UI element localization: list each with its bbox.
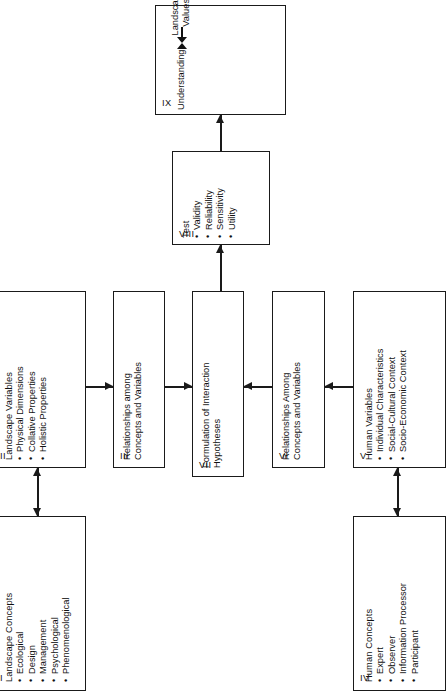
node-vii-content: Formulation of Interaction Hypotheses bbox=[201, 363, 224, 468]
node-iii-numeral: III bbox=[120, 451, 129, 461]
list-item: Reliability bbox=[204, 188, 215, 238]
connector-i-to-ii bbox=[32, 468, 44, 516]
arrowhead-right-icon bbox=[184, 382, 192, 390]
node-vi-numeral: VI bbox=[279, 451, 289, 461]
node-vi: Relationships Among Concepts and Variabl… bbox=[272, 291, 325, 468]
node-i-title: Landscape Concepts bbox=[4, 593, 15, 682]
node-iii-line1: Relationships among bbox=[122, 362, 133, 460]
arrowhead-up-icon bbox=[216, 245, 224, 253]
list-item: Psychological bbox=[50, 593, 61, 682]
node-iii-line2: Concepts and Variables bbox=[133, 362, 144, 460]
node-v-content: Human Variables Individual Characteristi… bbox=[364, 349, 410, 460]
node-ii-bullets: Physical Dimensions Collative Properties… bbox=[15, 366, 49, 460]
node-i-numeral: I bbox=[0, 673, 3, 683]
node-iii: Relationships among Concepts and Variabl… bbox=[113, 291, 165, 468]
arrowhead-left-icon bbox=[244, 382, 252, 390]
list-item: Information Processor bbox=[398, 583, 409, 682]
node-v-numeral: V bbox=[360, 451, 367, 461]
connector-ii-to-iii bbox=[86, 381, 113, 393]
node-viii-numeral: VIII bbox=[179, 229, 195, 239]
list-item: Sensitivity bbox=[215, 188, 226, 238]
node-i-bullets: Ecological Design Management Psychologic… bbox=[15, 593, 72, 682]
list-item: Observer bbox=[387, 583, 398, 682]
node-iv: Human Concepts Expert Observer Informati… bbox=[353, 516, 446, 691]
list-item: Social-Cultural Context bbox=[387, 349, 398, 460]
connector-vi-to-vii bbox=[244, 381, 272, 393]
arrowhead-left-icon bbox=[325, 382, 333, 390]
node-ii-title: Landscape Variables bbox=[4, 366, 15, 460]
node-vi-content: Relationships Among Concepts and Variabl… bbox=[281, 362, 304, 460]
node-ix-numeral: IX bbox=[162, 98, 172, 108]
node-ix: Understanding Landscape Values Applicati… bbox=[155, 5, 286, 115]
node-ix-content: Understanding Landscape Values Applicati… bbox=[170, 10, 193, 110]
list-item: Participant bbox=[410, 583, 421, 682]
arrowhead-up-icon bbox=[393, 468, 401, 476]
node-ix-understanding-label: Understanding bbox=[176, 50, 187, 110]
list-item: Ecological bbox=[15, 593, 26, 682]
node-vii-line2: Hypotheses bbox=[212, 363, 223, 468]
list-item: Individual Characteristics bbox=[375, 349, 386, 460]
list-item: Socio-Economic Context bbox=[398, 349, 409, 460]
node-v-title: Human Variables bbox=[364, 349, 375, 460]
node-v: Human Variables Individual Characteristi… bbox=[353, 291, 446, 468]
node-iii-content: Relationships among Concepts and Variabl… bbox=[122, 362, 145, 460]
arrowhead-right-icon bbox=[105, 382, 113, 390]
node-ii-numeral: II bbox=[0, 451, 6, 461]
node-viii: Test Validity Reliability Sensitivity Ut… bbox=[172, 151, 270, 245]
node-iv-numeral: IV bbox=[360, 673, 370, 683]
list-item: Design bbox=[27, 593, 38, 682]
arrowhead-down-icon bbox=[33, 508, 41, 516]
connector-iii-to-vii bbox=[165, 381, 192, 393]
connector-v-to-vi bbox=[325, 381, 353, 393]
list-item: Expert bbox=[375, 583, 386, 682]
connector-viii-to-ix bbox=[215, 115, 227, 151]
node-ii: Landscape Variables Physical Dimensions … bbox=[0, 291, 86, 468]
list-item: Holistic Properties bbox=[38, 366, 49, 460]
node-iv-content: Human Concepts Expert Observer Informati… bbox=[364, 583, 421, 682]
arrowhead-up-icon bbox=[216, 115, 224, 123]
list-item: Phenomenological bbox=[61, 593, 72, 682]
node-iv-bullets: Expert Observer Information Processor Pa… bbox=[375, 583, 421, 682]
node-v-bullets: Individual Characteristics Social-Cultur… bbox=[375, 349, 409, 460]
node-ix-row: Understanding Landscape Values Applicati… bbox=[170, 10, 193, 110]
list-item: Collative Properties bbox=[27, 366, 38, 460]
node-vi-line1: Relationships Among bbox=[281, 362, 292, 460]
list-item: Utility bbox=[227, 188, 238, 238]
connector-iv-to-v bbox=[392, 468, 404, 516]
node-vii: Formulation of Interaction Hypotheses VI… bbox=[192, 291, 244, 477]
list-item: Management bbox=[38, 593, 49, 682]
node-vii-numeral: VII bbox=[199, 460, 212, 470]
node-vii-line1: Formulation of Interaction bbox=[201, 363, 212, 468]
node-i: Landscape Concepts Ecological Design Man… bbox=[0, 516, 86, 691]
list-item: Physical Dimensions bbox=[15, 366, 26, 460]
node-i-content: Landscape Concepts Ecological Design Man… bbox=[4, 593, 72, 682]
arrowhead-down-icon bbox=[393, 508, 401, 516]
node-ii-content: Landscape Variables Physical Dimensions … bbox=[4, 366, 50, 460]
node-iv-title: Human Concepts bbox=[364, 583, 375, 682]
arrowhead-up-icon bbox=[33, 468, 41, 476]
node-viii-bullets: Validity Reliability Sensitivity Utility bbox=[192, 188, 238, 238]
node-vi-line2: Concepts and Variables bbox=[292, 362, 303, 460]
